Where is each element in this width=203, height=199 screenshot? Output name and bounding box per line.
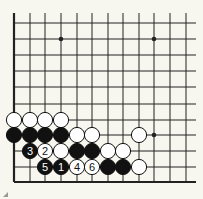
white-stone — [53, 112, 68, 127]
white-stone — [69, 127, 84, 142]
white-stone — [6, 112, 21, 127]
white-stone — [22, 112, 37, 127]
star-point-icon — [59, 37, 64, 42]
go-board: 325146 — [0, 0, 203, 199]
white-stone: 6 — [84, 159, 99, 174]
black-stone — [22, 127, 37, 142]
black-stone: 3 — [22, 143, 37, 158]
black-stone — [69, 143, 84, 158]
move-number: 2 — [42, 145, 48, 157]
black-stone — [6, 127, 21, 142]
corner-mark — [3, 192, 8, 197]
white-stone — [131, 159, 146, 174]
move-number: 4 — [74, 161, 80, 173]
black-stone — [100, 159, 115, 174]
white-stone — [115, 143, 130, 158]
star-point-icon — [152, 37, 157, 42]
black-stone — [53, 127, 68, 142]
white-stone — [37, 112, 52, 127]
black-stone — [115, 159, 130, 174]
star-point-icon — [152, 133, 157, 138]
white-stone — [84, 127, 99, 142]
white-stone — [100, 143, 115, 158]
move-number: 5 — [42, 161, 48, 173]
white-stone — [131, 127, 146, 142]
black-stone — [37, 127, 52, 142]
move-number: 6 — [89, 161, 95, 173]
black-stone: 1 — [53, 159, 68, 174]
move-number: 3 — [27, 145, 33, 157]
black-stone — [84, 143, 99, 158]
white-stone: 4 — [69, 159, 84, 174]
white-stone: 2 — [37, 143, 52, 158]
white-stone — [53, 143, 68, 158]
black-stone: 5 — [37, 159, 52, 174]
move-number: 1 — [58, 161, 64, 173]
